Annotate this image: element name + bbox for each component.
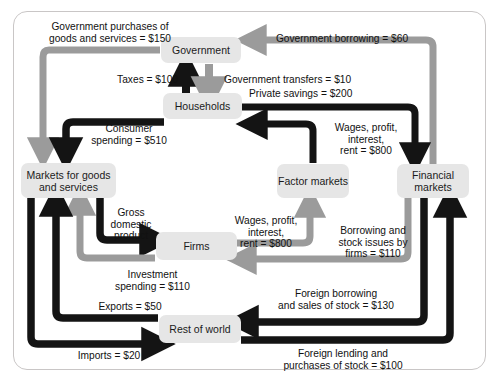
label-investment-spending: Investment spending = $110 — [86, 269, 219, 292]
label-consumer-spending: Consumer spending = $510 — [77, 123, 181, 146]
label-gov-borrowing: Government borrowing = $60 — [258, 33, 426, 45]
label-gross-domestic-product: Gross domestic product — [100, 207, 162, 242]
node-financial-markets[interactable]: Financial markets — [397, 164, 469, 198]
label-private-savings: Private savings = $200 — [249, 88, 399, 100]
label-gov-purchases: Government purchases of goods and servic… — [30, 21, 190, 44]
node-households[interactable]: Households — [163, 93, 242, 119]
node-factor-markets[interactable]: Factor markets — [277, 164, 349, 198]
label-taxes: Taxes = $100 — [84, 74, 178, 86]
label-imports: Imports = $20 — [47, 350, 171, 362]
label-exports: Exports = $50 — [68, 301, 192, 313]
label-foreign-borrowing: Foreign borrowing and sales of stock = $… — [256, 288, 416, 311]
node-firms[interactable]: Firms — [156, 232, 237, 260]
node-rest-of-world[interactable]: Rest of world — [159, 315, 241, 343]
circular-flow-diagram: Government Households Markets for goods … — [0, 0, 499, 383]
label-borrowing-stock-firms: Borrowing and stock issues by firms = $1… — [324, 225, 422, 260]
node-markets-for-goods-and-services[interactable]: Markets for goods and services — [21, 163, 116, 198]
label-foreign-lending: Foreign lending and purchases of stock =… — [259, 348, 427, 371]
label-wages-from-firms: Wages, profit, interest, rent = $800 — [226, 215, 306, 250]
label-wages-to-households: Wages, profit, interest, rent = $800 — [320, 122, 412, 157]
label-gov-transfers: Government transfers = $10 — [224, 74, 392, 86]
flow-wages-to-households — [253, 124, 313, 163]
